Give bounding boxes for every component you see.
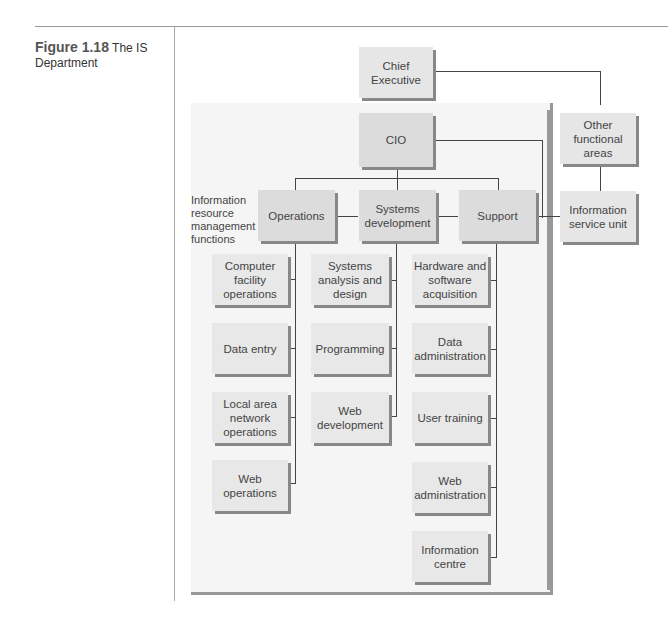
connector [542, 140, 543, 218]
node-other-functional-areas: Other functional areas [560, 113, 636, 164]
connector [490, 487, 497, 488]
connector [490, 418, 497, 419]
connector [490, 557, 497, 558]
sysdev-trunk [396, 240, 397, 416]
node-web-development: Web development [311, 392, 389, 443]
connector [600, 71, 601, 105]
node-hardware-and-software-acquisition: Hardware and software acquisition [412, 254, 488, 305]
connector [390, 348, 397, 349]
connector [289, 279, 296, 280]
connector [434, 71, 601, 72]
connector [490, 280, 497, 281]
node-cio: CIO [359, 113, 433, 167]
connector [289, 348, 296, 349]
node-programming: Programming [311, 323, 389, 374]
operations-trunk [295, 240, 296, 483]
connector [490, 349, 497, 350]
connector [295, 178, 296, 190]
panel-separator [547, 110, 550, 590]
top-rule [35, 26, 668, 27]
node-computer-facility-operations: Computer facility operations [212, 254, 288, 305]
figure-label: Figure 1.18 [35, 39, 109, 55]
figure-caption: Figure 1.18 The IS Department [35, 40, 170, 71]
connector [535, 216, 560, 217]
connector [336, 216, 358, 217]
connector [289, 483, 296, 484]
node-data-administration: Data administration [412, 323, 488, 374]
node-operations: Operations [258, 190, 335, 241]
connector [295, 178, 499, 179]
margin-rule [174, 26, 175, 601]
side-label: Information resource management function… [191, 194, 261, 246]
node-systems-analysis-and-design: Systems analysis and design [311, 254, 389, 305]
node-information-service-unit: Information service unit [560, 191, 636, 242]
node-data-entry: Data entry [212, 323, 288, 374]
support-trunk [496, 240, 497, 558]
node-chief-executive: Chief Executive [359, 47, 433, 98]
connector [289, 417, 296, 418]
node-user-training: User training [412, 392, 488, 443]
connector [390, 280, 397, 281]
node-information-centre: Information centre [412, 531, 488, 582]
node-systems-development: Systems development [359, 190, 436, 241]
connector [434, 140, 542, 141]
connector [498, 178, 499, 190]
node-web-operations: Web operations [212, 460, 288, 511]
node-web-administration: Web administration [412, 462, 488, 513]
connector [390, 416, 397, 417]
connector [436, 216, 458, 217]
node-local-area-network-operations: Local area network operations [212, 392, 288, 443]
node-support: Support [459, 190, 536, 241]
